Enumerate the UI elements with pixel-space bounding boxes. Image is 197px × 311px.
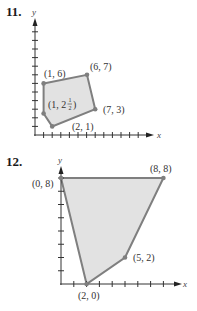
y-axis-arrow-icon (33, 18, 38, 26)
x-axis-label-11: x (156, 130, 161, 140)
vertex-label-8-8: (8, 8) (150, 163, 172, 175)
vertex-label-1-2-half: (1, 2 1 2 ) (48, 97, 76, 111)
svg-text:2: 2 (69, 105, 72, 111)
vertex-label-6-7: (6, 7) (90, 61, 112, 73)
vertex-label-2-0: (2, 0) (78, 290, 100, 302)
x-axis-label-12: x (182, 279, 187, 289)
svg-text:): ) (73, 99, 76, 111)
feasible-region-12 (61, 178, 163, 284)
chart-12: y x (0, 8) (8, 8) (5, 2) (2, 0) (0, 150, 197, 311)
vertex-label-0-8: (0, 8) (32, 178, 54, 190)
vertex-label-7-3: (7, 3) (103, 104, 125, 116)
svg-text:(1, 2: (1, 2 (48, 99, 66, 111)
chart-11: y x (1, 6) (6, 7) (7, 3) (2, 1) (1, 2 1 … (0, 0, 197, 150)
svg-text:1: 1 (69, 97, 72, 103)
y-axis-label-11: y (31, 7, 36, 17)
y-axis-label-12: y (57, 155, 62, 165)
x-axis-arrow-icon (146, 133, 154, 138)
vertex-label-2-1: (2, 1) (72, 121, 94, 133)
vertex-label-5-2: (5, 2) (133, 252, 155, 264)
vertex-label-1-6: (1, 6) (44, 68, 66, 80)
x-axis-arrow-icon (174, 282, 182, 287)
y-axis-arrow-icon (59, 166, 64, 174)
